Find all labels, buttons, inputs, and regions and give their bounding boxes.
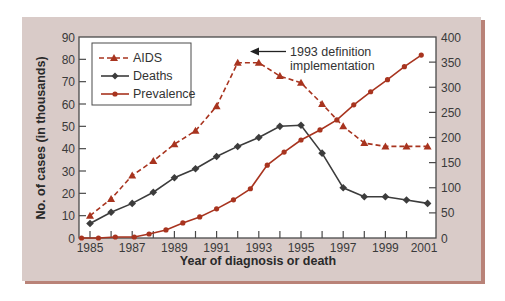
x-axis-title: Year of diagnosis or death xyxy=(180,254,336,268)
y-tick-label: 60 xyxy=(62,98,76,112)
circle-marker-icon xyxy=(368,89,373,94)
circle-marker-icon xyxy=(265,163,270,168)
legend-label-prevalence: Prevalence xyxy=(133,87,196,101)
x-tick-label: 1987 xyxy=(119,241,146,255)
circle-marker-icon xyxy=(132,234,137,239)
circle-marker-icon xyxy=(248,186,253,191)
circle-marker-icon xyxy=(214,206,219,211)
y-tick-label: 30 xyxy=(62,165,76,179)
y-right-tick-label: 100 xyxy=(441,181,461,195)
y-tick-label: 40 xyxy=(62,142,76,156)
y-tick-label: 50 xyxy=(62,120,76,134)
y-right-tick-label: 350 xyxy=(441,56,461,70)
legend-label-aids: AIDS xyxy=(133,51,162,65)
x-tick-label: 1993 xyxy=(245,241,272,255)
y-right-tick-label: 50 xyxy=(441,206,455,220)
circle-marker-icon xyxy=(317,127,322,132)
y-tick-label: 0 xyxy=(68,232,75,246)
x-tick-label: 1999 xyxy=(372,241,399,255)
x-tick-label: 1991 xyxy=(203,241,230,255)
circle-marker-icon xyxy=(113,234,118,239)
circle-marker-icon xyxy=(385,77,390,82)
legend-label-deaths: Deaths xyxy=(133,69,173,83)
circle-marker-icon xyxy=(419,52,424,57)
circle-marker-icon xyxy=(197,214,202,219)
y-tick-label: 70 xyxy=(62,75,76,89)
legend: AIDS Deaths Prevalence xyxy=(92,43,196,105)
circle-marker-icon xyxy=(282,149,287,154)
y-tick-label: 80 xyxy=(62,53,76,67)
y-right-tick-label: 200 xyxy=(441,131,461,145)
y-right-tick-label: 150 xyxy=(441,156,461,170)
annotation-line-1: 1993 definition xyxy=(290,45,371,59)
x-tick-label: 1989 xyxy=(161,241,188,255)
circle-marker-icon xyxy=(163,227,168,232)
circle-marker-icon xyxy=(231,197,236,202)
y-right-tick-label: 400 xyxy=(441,31,461,45)
y-right-tick-label: 0 xyxy=(441,232,448,246)
y-tick-label: 20 xyxy=(62,187,76,201)
circle-marker-icon xyxy=(180,220,185,225)
x-tick-label: 1997 xyxy=(330,241,357,255)
annotation-line-2: implementation xyxy=(290,59,375,73)
x-tick-label: 2001 xyxy=(411,241,438,255)
x-tick-label: 1985 xyxy=(77,241,104,255)
y-tick-label: 10 xyxy=(62,209,76,223)
x-tick-label: 1995 xyxy=(288,241,315,255)
circle-marker-icon xyxy=(146,231,151,236)
y-tick-label: 90 xyxy=(62,31,76,45)
circle-marker-icon xyxy=(96,235,101,240)
y-right-tick-label: 300 xyxy=(441,81,461,95)
circle-marker-icon xyxy=(79,235,84,240)
circle-marker-icon xyxy=(112,91,117,96)
y-axis-title: No. of cases (in thousands) xyxy=(34,56,48,219)
circle-marker-icon xyxy=(351,102,356,107)
chart: 0102030405060708090 05010015020025030035… xyxy=(0,0,505,301)
y-right-tick-label: 250 xyxy=(441,106,461,120)
circle-marker-icon xyxy=(334,117,339,122)
circle-marker-icon xyxy=(298,137,303,142)
circle-marker-icon xyxy=(402,64,407,69)
